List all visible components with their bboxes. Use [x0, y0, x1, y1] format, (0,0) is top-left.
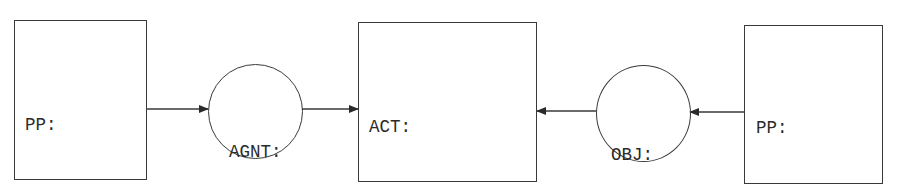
node-pp-apple: PP: {apple}: item05 false [744, 25, 883, 184]
node-text: OBJ: false [611, 90, 674, 193]
node-line: PP: [756, 112, 840, 144]
node-text: ACT: {INGEST}: impossible: false [369, 47, 485, 193]
node-line: ACT: [369, 111, 485, 143]
node-text: PP: {Peter}: Peter: false [25, 45, 109, 193]
node-text: AGNT: false [229, 87, 292, 193]
node-line: OBJ: [611, 142, 674, 168]
node-text: PP: {apple}: item05 false [756, 48, 840, 193]
diagram-canvas: PP: {Peter}: Peter: false AGNT: false AC… [0, 0, 901, 193]
node-line: AGNT: [229, 139, 292, 165]
node-pp-peter: PP: {Peter}: Peter: false [14, 20, 147, 180]
node-obj: OBJ: false [596, 65, 691, 162]
node-agnt: AGNT: false [208, 64, 303, 159]
node-act-ingest: ACT: {INGEST}: impossible: false [358, 22, 537, 182]
node-line: PP: [25, 109, 109, 141]
